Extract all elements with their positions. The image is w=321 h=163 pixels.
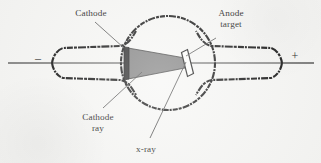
right-neck-upper-wall: [196, 31, 282, 63]
cathode-ray-cone: [128, 48, 185, 79]
label-cathode-ray-line1: Cathode: [82, 112, 114, 122]
figure-canvas: Cathode Anode target Cathode ray x-ray –…: [0, 0, 321, 163]
label-cathode: Cathode: [75, 8, 107, 18]
cathode-electrode: [124, 47, 129, 80]
label-positive-terminal: +: [292, 49, 299, 63]
cathode-leader-line: [95, 22, 124, 48]
label-anode-target-line2: target: [220, 19, 242, 29]
label-xray: x-ray: [136, 144, 156, 154]
label-cathode-ray-line2: ray: [92, 123, 104, 133]
label-anode-target-line1: Anode: [218, 8, 243, 18]
label-negative-terminal: –: [34, 51, 42, 65]
cathode-ray-leader-line: [103, 72, 142, 108]
xray-tube-diagram: Cathode Anode target Cathode ray x-ray –…: [0, 0, 321, 163]
right-neck-lower-wall: [196, 63, 282, 95]
